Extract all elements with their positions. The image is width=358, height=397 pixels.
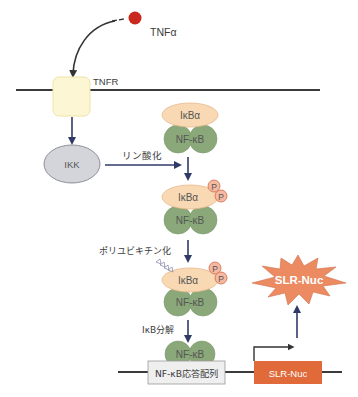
ubiquitin-chain-icon [156,259,173,272]
tnf-alpha-dot [129,12,142,25]
svg-text:P: P [218,274,224,284]
ikba-label: IκBα [180,110,200,121]
nfkb-label: NF-κB [176,215,205,226]
nfkb-label: NF-κB [176,134,205,145]
slr-nuc-gene: SLR-Nuc [254,361,322,384]
ikk-label: IKK [64,159,80,170]
tnf-alpha-label: TNFα [150,26,176,38]
pathway-diagram: TNFα TNFR IKK リン酸化 IκBα NF-κB P P IκBα N… [0,0,358,397]
tnfr-label: TNFR [93,76,118,87]
product-label: SLR-Nuc [275,274,324,286]
tnfr-receptor: TNFR [53,76,118,116]
complex-phospho-ikba-nfkb: P P IκBα NF-κB [162,180,227,234]
ikba-label: IκBα [178,275,198,286]
degradation-label: IκB分解 [142,324,174,335]
ikk-kinase: IKK [44,145,100,183]
promoter-arrow [254,347,291,361]
ikba-label: IκBα [178,192,198,203]
polyubiquitination-label: ポリユビキチン化 [99,245,171,256]
svg-text:P: P [212,264,218,274]
nfkb-label: NF-κB [176,349,205,360]
complex-ubiquitinated-ikba-nfkb: P P IκBα NF-κB [156,259,227,316]
slr-nuc-product: SLR-Nuc [252,255,346,305]
tnf-alpha-ligand: TNFα [73,12,176,75]
phosphorylation-label: リン酸化 [122,150,162,161]
svg-text:P: P [218,192,224,202]
gene-label: SLR-Nuc [269,368,308,379]
nfkb-response-element: NF-κB応答配列 [148,361,225,384]
complex-ikba-nfkb-1: IκBα NF-κB [162,103,218,153]
nfkb-label: NF-κB [176,297,205,308]
response-element-label: NF-κB応答配列 [155,368,218,379]
svg-text:P: P [211,182,217,192]
